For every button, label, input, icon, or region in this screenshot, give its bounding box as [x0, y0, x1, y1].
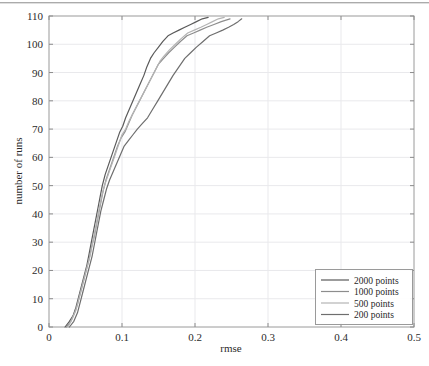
x-axis-label: rmse — [220, 342, 242, 354]
y-tick-label: 50 — [32, 180, 44, 192]
x-tick-label: 0 — [46, 331, 52, 343]
y-tick-label: 60 — [32, 151, 44, 163]
series-line — [67, 19, 231, 327]
y-axis-label: number of runs — [12, 137, 24, 204]
legend-item-label[interactable]: 2000 points — [354, 276, 399, 286]
y-tick-label: 10 — [32, 293, 44, 305]
data-curves — [65, 17, 242, 327]
x-tick-label: 0.5 — [407, 331, 421, 343]
x-tick-label: 0.3 — [261, 331, 275, 343]
legend-item-label[interactable]: 200 points — [354, 310, 394, 320]
legend[interactable]: 2000 points1000 points500 points200 poin… — [316, 270, 413, 325]
figure-canvas: 00.10.20.30.40.5 01020304050607080901001… — [0, 0, 429, 366]
series-line — [69, 19, 241, 327]
x-tick-label: 0.4 — [334, 331, 348, 343]
y-tick-label: 70 — [32, 123, 44, 135]
y-tick-label: 100 — [27, 38, 44, 50]
y-tick-label: 40 — [32, 208, 44, 220]
y-tick-label: 90 — [32, 67, 44, 79]
y-tick-label: 0 — [38, 321, 44, 333]
y-tick-label: 30 — [32, 236, 44, 248]
series-line — [65, 17, 208, 327]
x-tick-label: 0.2 — [188, 331, 202, 343]
cdf-chart: 00.10.20.30.40.5 01020304050607080901001… — [0, 0, 429, 366]
legend-item-label[interactable]: 500 points — [354, 299, 394, 309]
y-tick-label: 20 — [32, 264, 44, 276]
y-tick-labels: 0102030405060708090100110 — [27, 10, 44, 333]
y-tick-label: 80 — [32, 95, 44, 107]
y-tick-label: 110 — [27, 10, 44, 22]
series-line — [68, 17, 224, 327]
x-tick-label: 0.1 — [115, 331, 129, 343]
legend-item-label[interactable]: 1000 points — [354, 287, 399, 297]
